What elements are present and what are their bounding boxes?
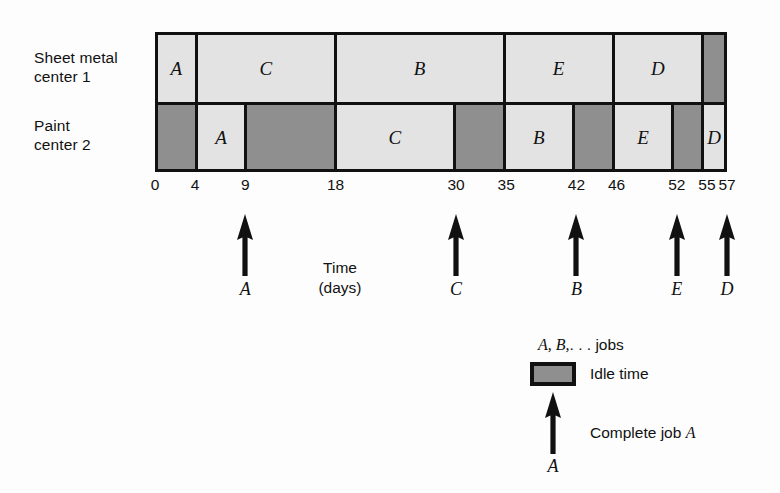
axis-tick-label-52: 52 [668, 176, 685, 194]
axis-tick-label-30: 30 [447, 176, 464, 194]
axis-tick-label-57: 57 [718, 176, 735, 194]
axis-tick-label-35: 35 [498, 176, 515, 194]
idle-time-swatch [530, 362, 576, 386]
axis-title-time-days: Time (days) [318, 258, 361, 298]
axis-tick-label-42: 42 [568, 176, 585, 194]
legend-arrow-column: A [530, 392, 576, 477]
axis-tick-label-0: 0 [151, 176, 160, 194]
gantt-chart-figure: Sheet metal center 1 Paint center 2 ACBE… [0, 0, 780, 493]
legend-jobs-prefix: A, B, [538, 336, 570, 353]
legend-complete-row: A Complete job A [530, 392, 770, 477]
up-arrow-icon [445, 214, 467, 276]
completion-marker-C: C [445, 214, 467, 300]
legend-complete-prefix: Complete job [590, 424, 681, 441]
up-arrow-icon [234, 214, 256, 276]
axis-tick-label-9: 9 [241, 176, 250, 194]
legend-jobs-suffix: jobs [595, 336, 623, 353]
legend-idle-row: Idle time [530, 362, 770, 386]
legend: A, B,. . . jobs Idle time A Complete job… [530, 336, 770, 477]
completion-marker-E: E [666, 214, 688, 300]
axis-tick-label-4: 4 [191, 176, 200, 194]
completion-marker-A: A [234, 214, 256, 300]
completion-marker-job-label: B [565, 279, 587, 300]
legend-idle-label: Idle time [590, 365, 649, 383]
axis-tick-label-55: 55 [698, 176, 715, 194]
completion-marker-D: D [716, 214, 738, 300]
legend-complete-job: A [686, 424, 696, 441]
completion-marker-job-label: A [234, 279, 256, 300]
completion-marker-job-label: D [716, 279, 738, 300]
legend-jobs-note: A, B,. . . jobs [538, 336, 770, 354]
up-arrow-icon [666, 214, 688, 276]
legend-arrow-job-label: A [530, 456, 576, 477]
up-arrow-icon [542, 392, 564, 454]
up-arrow-icon [565, 214, 587, 276]
legend-complete-label: Complete job A [590, 424, 695, 442]
completion-marker-job-label: C [445, 279, 467, 300]
completion-marker-B: B [565, 214, 587, 300]
up-arrow-icon [716, 214, 738, 276]
legend-jobs-ellipsis: . . . [570, 336, 592, 353]
completion-marker-job-label: E [666, 279, 688, 300]
axis-tick-label-18: 18 [327, 176, 344, 194]
axis-tick-label-46: 46 [608, 176, 625, 194]
